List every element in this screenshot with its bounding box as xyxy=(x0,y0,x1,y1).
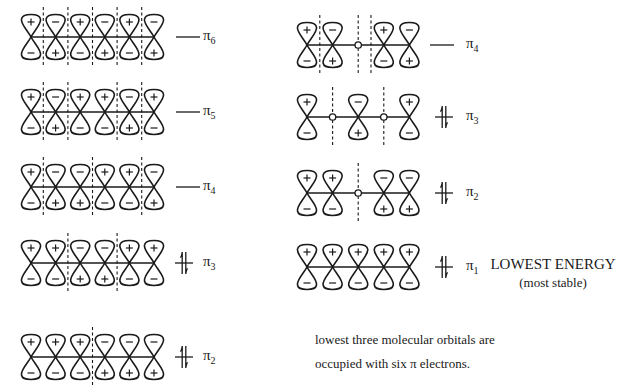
pentadienyl-pi3-label: π3 xyxy=(466,107,479,126)
lowest-energy-label: LOWEST ENERGY xyxy=(490,256,615,273)
hexatriene-pi5-orbital xyxy=(21,82,200,142)
hexatriene-pi2-label: π2 xyxy=(203,347,216,366)
pentadienyl-pi2-label: π2 xyxy=(466,183,479,202)
pentadienyl-pi2-orbital xyxy=(297,163,453,223)
hexatriene-pi5-label: π5 xyxy=(203,102,216,121)
most-stable-label: (most stable) xyxy=(519,275,587,291)
hexatriene-pi4-label: π4 xyxy=(203,177,216,196)
hexatriene-pi3-label: π3 xyxy=(203,253,216,272)
pentadienyl-pi1-orbital xyxy=(297,245,453,290)
footnote-line-1: lowest three molecular orbitals are xyxy=(315,328,615,352)
footnote: lowest three molecular orbitals are occu… xyxy=(315,328,615,376)
pentadienyl-pi4-label: π4 xyxy=(466,35,479,54)
pentadienyl-pi1-label: π1 xyxy=(466,257,479,276)
pentadienyl-pi3-orbital xyxy=(297,87,453,147)
hexatriene-pi2-orbital xyxy=(21,327,193,387)
hexatriene-pi6-orbital xyxy=(21,7,200,67)
hexatriene-pi6-label: π6 xyxy=(203,27,216,46)
footnote-line-2: occupied with six π electrons. xyxy=(315,352,615,376)
hexatriene-pi4-orbital xyxy=(21,157,200,217)
hexatriene-pi3-orbital xyxy=(21,233,193,293)
pentadienyl-pi4-orbital xyxy=(297,15,454,75)
